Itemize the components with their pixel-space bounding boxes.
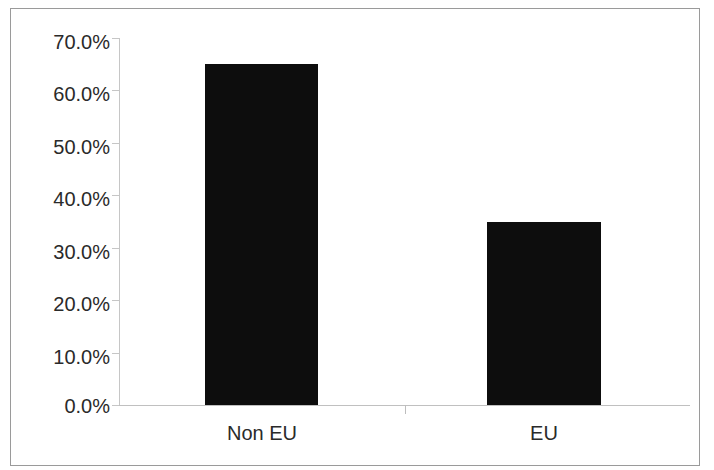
y-tick-label-50: 50.0% <box>10 137 110 157</box>
bar-non-eu <box>205 64 318 405</box>
x-axis-category-separator-tick <box>405 405 406 414</box>
y-tick-label-0: 0.0% <box>10 396 110 416</box>
y-tick-label-40: 40.0% <box>10 189 110 209</box>
plot-area <box>120 38 690 405</box>
y-tick-label-60: 60.0% <box>10 84 110 104</box>
y-tick-label-20: 20.0% <box>10 294 110 314</box>
bar-eu <box>487 222 601 406</box>
x-axis-label-non-eu: Non EU <box>202 421 322 445</box>
bar-chart-figure: 70.0% 60.0% 50.0% 40.0% 30.0% 20.0% 10.0… <box>0 0 714 470</box>
y-axis-labels: 70.0% 60.0% 50.0% 40.0% 30.0% 20.0% 10.0… <box>5 0 110 470</box>
x-axis-label-eu: EU <box>484 421 604 445</box>
y-tick-label-10: 10.0% <box>10 347 110 367</box>
y-tick-label-30: 30.0% <box>10 242 110 262</box>
y-tick-label-70: 70.0% <box>10 32 110 52</box>
